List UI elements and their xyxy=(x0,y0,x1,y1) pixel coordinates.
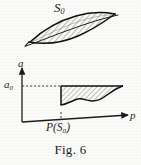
figure-drawing xyxy=(0,0,141,165)
x-axis-label: p xyxy=(130,110,136,121)
y-tick-label-a0: a0 xyxy=(4,79,13,92)
lens-region-label: S0 xyxy=(54,1,65,16)
figure-container: S0 a a0 p P(S0) Fig. 6 xyxy=(0,0,141,165)
x-axis xyxy=(22,115,128,122)
x-tick-label-ps0: P(S0) xyxy=(46,122,70,135)
y-axis-label: a xyxy=(18,58,24,69)
figure-caption: Fig. 6 xyxy=(0,142,141,158)
plot-group xyxy=(22,68,128,122)
lens-region-group xyxy=(25,13,118,47)
